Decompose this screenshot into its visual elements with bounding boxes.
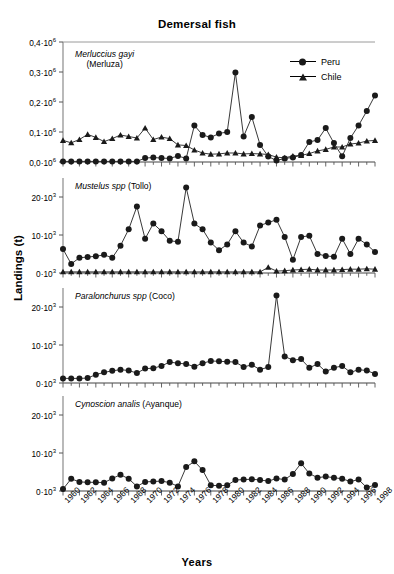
data-point-circle (257, 142, 263, 148)
y-tick-label: 10·103 (0, 230, 56, 241)
data-point-circle (273, 293, 279, 299)
data-point-circle (159, 363, 165, 369)
data-point-circle (323, 369, 329, 375)
data-point-circle (175, 239, 181, 245)
data-point-circle (290, 257, 296, 263)
data-point-circle (315, 361, 321, 367)
data-point-circle (298, 356, 304, 362)
data-point-triangle (109, 136, 115, 142)
data-point-circle (117, 472, 123, 478)
data-point-circle (224, 359, 230, 365)
data-point-circle (290, 357, 296, 363)
data-point-circle (167, 155, 173, 161)
data-point-circle (216, 247, 222, 253)
data-point-circle (101, 480, 107, 486)
data-point-circle (126, 367, 132, 373)
data-point-circle (249, 362, 255, 368)
data-point-circle (208, 240, 214, 246)
panel-cynoscion: 0·10310·10320·103Cynoscion analis (Ayanq… (0, 396, 394, 493)
data-point-circle (282, 353, 288, 359)
data-point-circle (265, 364, 271, 370)
data-point-circle (76, 479, 82, 485)
data-point-circle (364, 242, 370, 248)
data-point-circle (323, 253, 329, 259)
data-point-circle (364, 108, 370, 114)
data-point-circle (85, 254, 91, 260)
data-point-circle (126, 476, 132, 482)
panel-mustelus: 0·10310·10320·103Mustelus spp (Tollo) (0, 178, 394, 275)
data-point-circle (109, 475, 115, 481)
data-point-circle (265, 478, 271, 484)
data-point-circle (306, 233, 312, 239)
data-point-circle (68, 261, 74, 267)
data-point-triangle (191, 147, 197, 153)
data-point-circle (208, 358, 214, 364)
data-point-circle (191, 458, 197, 464)
panel-paralonchurus: 0·10310·10320·103Paralonchurus spp (Coco… (0, 288, 394, 385)
data-point-circle (347, 251, 353, 257)
data-point-circle (265, 219, 271, 225)
data-point-circle (142, 366, 148, 372)
demersal-fish-figure: Demersal fish Landings (t) Years Peru Ch… (0, 0, 394, 574)
data-point-circle (347, 369, 353, 375)
data-point-circle (339, 476, 345, 482)
y-tick-label: 10·103 (0, 448, 56, 459)
data-point-circle (76, 375, 82, 381)
data-point-circle (167, 480, 173, 486)
data-point-circle (68, 375, 74, 381)
data-point-circle (315, 251, 321, 257)
data-point-circle (183, 185, 189, 191)
data-point-circle (356, 477, 362, 483)
y-tick-label: 0,2·106 (0, 97, 56, 108)
data-point-circle (273, 217, 279, 223)
data-point-circle (117, 243, 123, 249)
data-point-circle (150, 155, 156, 161)
data-point-circle (85, 375, 91, 381)
data-point-circle (175, 360, 181, 366)
data-point-triangle (175, 142, 181, 148)
data-point-circle (159, 478, 165, 484)
data-point-circle (249, 114, 255, 120)
data-point-circle (183, 155, 189, 161)
data-point-circle (191, 221, 197, 227)
data-point-circle (60, 246, 66, 252)
data-point-circle (134, 204, 140, 210)
data-point-circle (347, 479, 353, 485)
y-tick-label: 0,4·106 (0, 37, 56, 48)
data-point-triangle (265, 264, 271, 270)
data-point-circle (159, 228, 165, 234)
data-point-circle (208, 134, 214, 140)
data-point-circle (372, 249, 378, 255)
data-point-circle (216, 358, 222, 364)
data-point-circle (93, 253, 99, 259)
data-point-triangle (142, 125, 148, 131)
data-point-circle (315, 137, 321, 143)
data-point-circle (249, 476, 255, 482)
y-tick-label: 0·103 (0, 268, 56, 279)
data-point-circle (93, 372, 99, 378)
panel-caption-mustelus: Mustelus spp (Tollo) (75, 182, 151, 192)
data-point-circle (232, 477, 238, 483)
data-point-circle (257, 367, 263, 373)
data-point-circle (101, 252, 107, 258)
data-point-circle (356, 122, 362, 128)
data-point-circle (60, 486, 66, 492)
data-point-circle (109, 368, 115, 374)
data-point-circle (241, 134, 247, 140)
data-point-circle (85, 158, 91, 164)
data-point-circle (290, 471, 296, 477)
y-tick-label: 0·103 (0, 378, 56, 389)
series-line-peru (63, 296, 375, 379)
page-title: Demersal fish (0, 18, 394, 30)
data-point-circle (134, 370, 140, 376)
data-point-circle (273, 475, 279, 481)
data-point-circle (339, 153, 345, 159)
series-line-peru (63, 73, 375, 162)
data-point-circle (109, 255, 115, 261)
y-tick-label: 20·103 (0, 192, 56, 203)
data-point-circle (356, 236, 362, 242)
data-point-circle (282, 234, 288, 240)
data-point-circle (109, 158, 115, 164)
data-point-circle (93, 479, 99, 485)
y-tick-label: 0,1·106 (0, 127, 56, 138)
